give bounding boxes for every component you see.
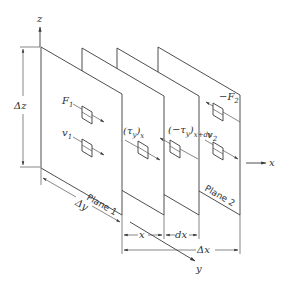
diagram-canvas: z Δz Δy y x x dx Δx Plane 1 Plane 2 F1 <box>0 0 289 282</box>
z-axis-label: z <box>36 13 43 24</box>
y-axis-arrow <box>130 222 195 261</box>
dx-total-label: Δx <box>196 244 210 255</box>
dz-label: Δz <box>13 100 27 111</box>
x-axis-label: x <box>269 157 275 168</box>
y-axis-label: y <box>195 263 202 274</box>
x-dim-label: x <box>139 229 145 240</box>
dx-dim-label: dx <box>175 229 187 240</box>
